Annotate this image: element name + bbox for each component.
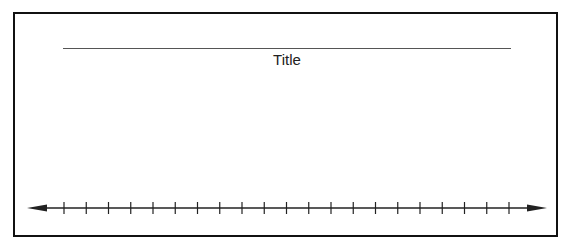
number-line xyxy=(0,0,574,248)
tick-marks xyxy=(64,202,509,214)
left-arrow-icon xyxy=(27,205,47,212)
right-arrow-icon xyxy=(527,205,547,212)
